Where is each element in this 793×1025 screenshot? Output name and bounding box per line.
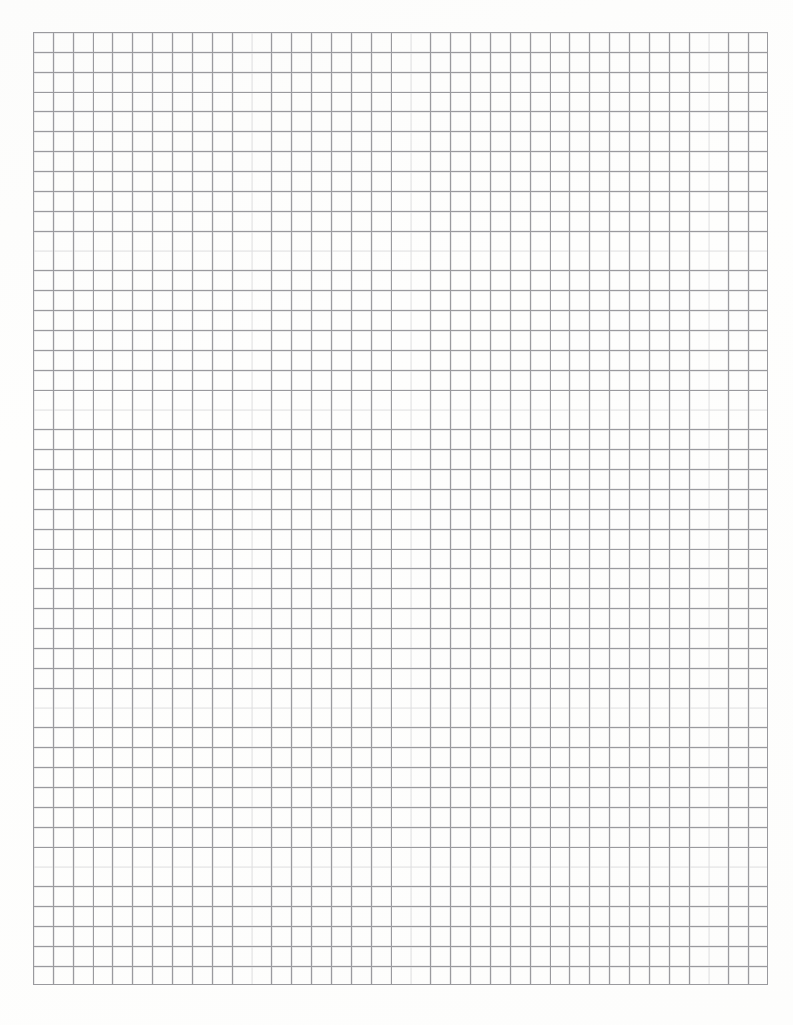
square-ruled-grid bbox=[33, 32, 768, 985]
grid-border-frame bbox=[33, 32, 768, 985]
graph-paper-page bbox=[0, 0, 793, 1025]
